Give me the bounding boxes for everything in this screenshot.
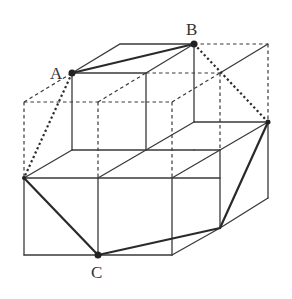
point-c [95,252,102,259]
point-b [191,41,198,48]
upper-cube [72,44,268,150]
point-e [22,176,26,180]
cube-diagram: A B C [0,0,292,299]
label-a: A [50,64,63,83]
point-d [266,120,271,125]
label-c: C [91,263,102,282]
point-a [69,70,76,77]
edge [220,44,268,73]
label-b: B [186,20,197,39]
